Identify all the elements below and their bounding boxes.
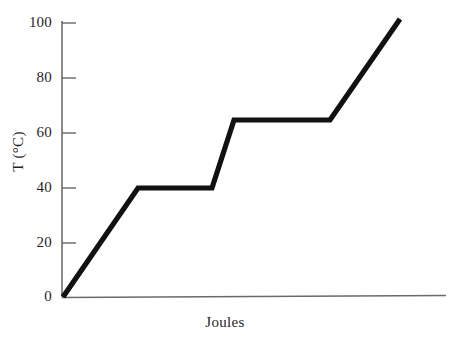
- heating-curve-chart: 100 80 60 40 20 0 T (°C) Joules: [0, 0, 450, 338]
- chart-canvas: [0, 0, 450, 338]
- y-tick-label-100: 100: [16, 15, 52, 30]
- y-tick-label-20: 20: [16, 235, 52, 250]
- x-axis-title: Joules: [0, 314, 450, 331]
- x-axis-line: [62, 296, 446, 298]
- y-axis-title: T (°C): [10, 112, 27, 192]
- y-axis-ticks: [62, 23, 76, 243]
- y-tick-label-80: 80: [16, 70, 52, 85]
- y-tick-label-0: 0: [16, 289, 52, 304]
- data-line-heating-curve: [63, 19, 400, 297]
